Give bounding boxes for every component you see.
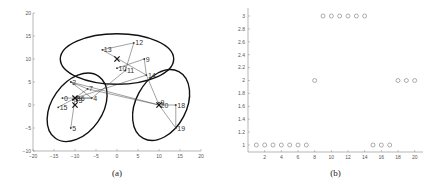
data-point [354, 14, 358, 18]
x-tick-label: 8 [313, 154, 316, 160]
data-point [338, 14, 342, 18]
y-tick-label: 2.2 [238, 64, 245, 70]
point-label: 15 [60, 104, 68, 111]
y-tick-label: −10 [23, 148, 32, 154]
caption-a: (a) [112, 168, 122, 178]
data-point [329, 14, 333, 18]
x-tick-label: 12 [345, 154, 351, 160]
edge [88, 89, 159, 105]
point-label: 11 [127, 67, 134, 74]
point-label: 18 [177, 102, 185, 109]
y-tick-label: 2.6 [238, 39, 245, 45]
y-tick-label: 0 [28, 102, 31, 108]
data-point [363, 14, 367, 18]
data-point [254, 143, 258, 147]
point-label: 2 [72, 79, 76, 86]
data-point [413, 79, 417, 83]
x-tick-label: −5 [93, 153, 99, 159]
point-label: 0 [64, 95, 68, 102]
data-point [346, 14, 350, 18]
x-tick-label: 10 [156, 153, 162, 159]
data-point [271, 143, 275, 147]
y-tick-label: −5 [25, 125, 31, 131]
centroid-x-marker [72, 102, 77, 107]
data-point [404, 79, 408, 83]
point-label: 5 [72, 125, 76, 132]
y-tick-label: 1.8 [238, 90, 245, 96]
y-tick-label: 20 [25, 10, 31, 16]
point-label: 12 [135, 39, 143, 46]
data-point [313, 79, 317, 83]
data-point [279, 143, 283, 147]
data-point [396, 79, 400, 83]
data-point [304, 143, 308, 147]
point-label: 7 [89, 85, 93, 92]
x-tick-label: 4 [280, 154, 283, 160]
x-tick-label: 14 [362, 154, 368, 160]
x-tick-label: 2 [263, 154, 266, 160]
data-point [296, 143, 300, 147]
y-tick-label: 2.4 [238, 52, 245, 58]
y-tick-label: 2.8 [238, 26, 245, 32]
data-point [388, 143, 392, 147]
x-tick-label: 16 [379, 154, 385, 160]
edge [146, 75, 159, 105]
x-tick-label: 15 [177, 153, 183, 159]
data-point [321, 14, 325, 18]
figure: −20−15−10−505101520−10−50510152027483610… [0, 0, 440, 185]
point-label: 6 [81, 95, 85, 102]
x-tick-label: 20 [198, 153, 204, 159]
y-tick-label: 1.4 [238, 116, 245, 122]
x-tick-label: 0 [116, 153, 119, 159]
point-label: 19 [177, 125, 185, 132]
x-tick-label: 5 [137, 153, 140, 159]
x-tick-label: 18 [395, 154, 401, 160]
edge [75, 75, 146, 98]
y-tick-label: 15 [25, 33, 31, 39]
x-tick-label: −10 [71, 153, 80, 159]
x-tick-label: 6 [297, 154, 300, 160]
x-tick-label: 20 [412, 154, 418, 160]
x-tick-label: −20 [29, 153, 38, 159]
x-tick-label: −15 [50, 153, 59, 159]
y-tick-label: 5 [28, 79, 31, 85]
y-tick-label: 10 [25, 56, 31, 62]
data-point [263, 143, 267, 147]
plot-a-cluster-scatter: −20−15−10−505101520−10−50510152027483610… [23, 10, 204, 178]
point-label: 13 [104, 46, 112, 53]
y-tick-label: 1.2 [238, 129, 245, 135]
point-label: 9 [146, 56, 150, 63]
point-label: 4 [93, 95, 97, 102]
plot-b-cluster-assignment: 246810121416182011.21.41.61.822.22.42.62… [238, 8, 423, 178]
y-tick-label: 1.6 [238, 103, 245, 109]
data-point [371, 143, 375, 147]
y-tick-label: 1 [242, 142, 245, 148]
data-point [288, 143, 292, 147]
point-label: 14 [148, 72, 156, 79]
y-tick-label: 2 [242, 77, 245, 83]
x-tick-label: 10 [329, 154, 335, 160]
data-point [379, 143, 383, 147]
y-tick-label: 3 [242, 13, 245, 19]
caption-b: (b) [330, 168, 341, 178]
